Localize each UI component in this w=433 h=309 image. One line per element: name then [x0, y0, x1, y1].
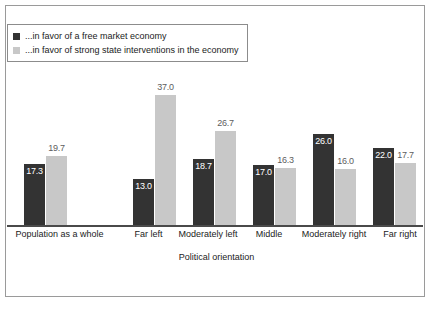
bar-rect: 22.0 [373, 148, 394, 225]
bar-group-far-left: 13.0 37.0 [133, 14, 177, 225]
bar-value-label: 22.0 [373, 150, 394, 161]
bar-rect: 19.7 [46, 156, 67, 225]
chart-screenshot: ...in favor of a free market economy ...… [0, 0, 433, 309]
x-tick-label-moderately-right: Moderately right [291, 229, 377, 239]
bar-value-label: 18.7 [193, 161, 214, 172]
bar-rect: 17.7 [395, 163, 416, 225]
bar-rect: 37.0 [155, 95, 176, 225]
bar-group-moderately-left: 18.7 26.7 [193, 14, 237, 225]
bar-rect: 13.0 [133, 179, 154, 225]
bar-rect: 17.0 [253, 165, 274, 225]
x-tick-label-moderately-left: Moderately left [169, 229, 247, 239]
bar-group-far-right: 22.0 17.7 [373, 14, 417, 225]
bar-value-label: 37.0 [155, 82, 176, 93]
bar-group-moderately-right: 26.0 16.0 [313, 14, 357, 225]
x-tick-label-far-right: Far right [371, 229, 429, 239]
bar-group-middle: 17.0 16.3 [253, 14, 297, 225]
bar-value-label: 19.7 [46, 143, 67, 154]
bar-rect: 26.7 [215, 131, 236, 225]
bar-value-label: 26.0 [313, 136, 334, 147]
bar-rect: 26.0 [313, 134, 334, 225]
bar-value-label: 13.0 [133, 181, 154, 192]
bar-value-label: 16.3 [275, 155, 296, 166]
bar-rect: 16.3 [275, 168, 296, 225]
plot-area: 17.3 19.7 13.0 37.0 [7, 14, 423, 225]
bar-value-label: 17.7 [395, 150, 416, 161]
bar-rect: 16.0 [335, 169, 356, 225]
bar-value-label: 16.0 [335, 156, 356, 167]
bar-value-label: 26.7 [215, 118, 236, 129]
bar-rect: 17.3 [24, 164, 45, 225]
x-tick-label-population-as-a-whole: Population as a whole [2, 229, 117, 239]
bar-group-population-as-a-whole: 17.3 19.7 [24, 14, 68, 225]
bar-value-label: 17.3 [24, 166, 45, 177]
bar-value-label: 17.0 [253, 167, 274, 178]
x-tick-label-middle: Middle [239, 229, 299, 239]
bar-rect: 18.7 [193, 159, 214, 225]
x-axis-title: Political orientation [0, 252, 433, 262]
x-axis-line [7, 225, 423, 227]
